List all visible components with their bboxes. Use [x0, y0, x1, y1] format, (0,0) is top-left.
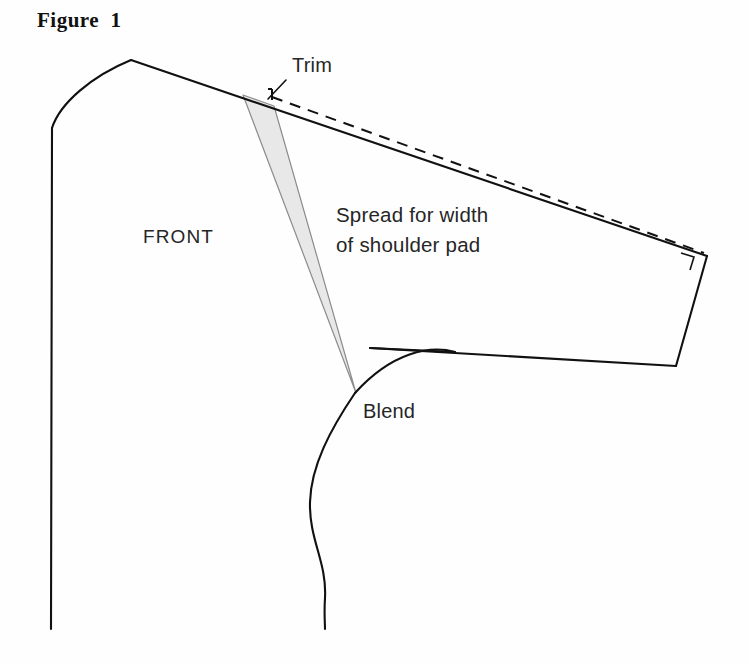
- label-spread-line2: of shoulder pad: [336, 233, 480, 256]
- label-spread-line1: Spread for width: [336, 203, 488, 226]
- neckline-curve: [52, 60, 131, 128]
- armhole-right-edge: [676, 256, 707, 366]
- label-trim: Trim: [292, 54, 332, 76]
- label-blend: Blend: [363, 400, 415, 422]
- trim-dashed-line: [268, 89, 704, 253]
- right-angle-mark-icon: [681, 253, 694, 270]
- side-seam-curve: [310, 393, 355, 629]
- label-front: FRONT: [143, 226, 214, 247]
- figure-canvas: Figure 1 Trim FRONT Spread for width o: [0, 0, 749, 664]
- shoulder-seam-line: [131, 60, 707, 256]
- center-front-line: [51, 128, 52, 629]
- armhole-blend-curve: [355, 350, 455, 393]
- pattern-drawing: Trim FRONT Spread for width of shoulder …: [0, 0, 749, 664]
